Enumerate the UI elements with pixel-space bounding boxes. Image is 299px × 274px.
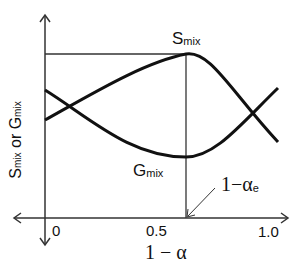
s-mix-curve — [45, 54, 278, 142]
x-axis-label: 1 − α — [145, 242, 187, 262]
g-mix-curve — [45, 88, 278, 157]
y-axis-label: Smix or Gmix — [8, 101, 24, 178]
s-mix-label: Smix — [172, 30, 200, 47]
diagram: Smix or Gmix Smix Gmix 1−αe 0 0.5 1.0 1 … — [0, 0, 299, 274]
g-mix-label: Gmix — [133, 162, 163, 179]
annotation-arrow-line — [188, 188, 215, 216]
x-tick-1-0: 1.0 — [258, 224, 279, 239]
x-tick-0: 0 — [52, 223, 60, 238]
x-tick-0-5: 0.5 — [146, 223, 167, 238]
equilibrium-annotation: 1−αe — [221, 174, 259, 194]
